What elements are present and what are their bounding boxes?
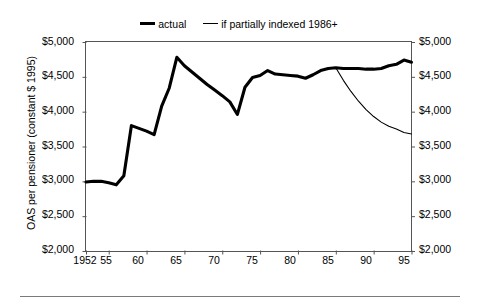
- axis-tick-marks: [83, 43, 416, 255]
- plot-area: [0, 0, 478, 306]
- plot-frame: [86, 42, 412, 252]
- chart-figure: actual if partially indexed 1986+ OAS pe…: [0, 0, 478, 306]
- series-line-if-partially-indexed: [336, 68, 412, 134]
- footer-divider: [20, 296, 460, 297]
- series-line-actual: [86, 57, 412, 184]
